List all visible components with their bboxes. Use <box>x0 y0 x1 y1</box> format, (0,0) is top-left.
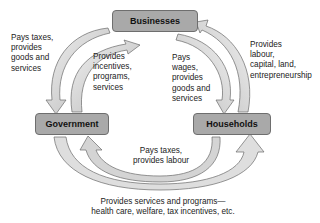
label-pays-taxes-goods: Pays taxes, provides goods and services <box>11 33 53 74</box>
node-households: Households <box>193 113 271 135</box>
label-pays-taxes-labour: Pays taxes, provides labour <box>126 146 196 166</box>
label-pays-wages: Pays wages, provides goods and services <box>172 53 210 104</box>
label-provides-labour-capital: Provides labour, capital, land, entrepre… <box>250 40 312 81</box>
label-provides-incentives: Provides incentives, programs, services <box>93 52 132 93</box>
node-businesses: Businesses <box>112 10 198 32</box>
label-provides-services-programs: Provides services and programs— health c… <box>78 197 248 217</box>
node-government: Government <box>35 113 109 135</box>
